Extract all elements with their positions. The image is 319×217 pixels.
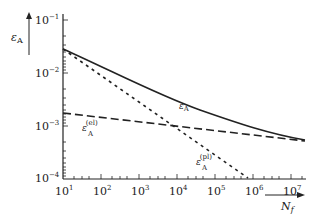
y-tick-labels: 10−1 10−2 10−3 10−4: [35, 13, 60, 185]
svg-text:10−1: 10−1: [35, 13, 59, 27]
x-arrow-head-icon: [297, 192, 305, 198]
svg-text:10−3: 10−3: [35, 119, 59, 133]
y-minor-ticks: [63, 20, 68, 176]
svg-text:10−4: 10−4: [35, 171, 60, 185]
label-total: εA: [179, 101, 190, 113]
label-plastic-sub: A: [201, 164, 208, 172]
curve-plastic-strain: [63, 49, 248, 178]
svg-text:103: 103: [131, 184, 149, 198]
svg-text:105: 105: [207, 184, 225, 198]
x-axis-label: Nf: [280, 200, 296, 214]
label-elastic-sub: A: [87, 130, 94, 138]
y-axis-label: εA: [11, 31, 23, 45]
svg-text:10−2: 10−2: [35, 66, 59, 80]
svg-text:102: 102: [93, 184, 111, 198]
strain-life-chart: 10−1 10−2 10−3 10−4 101 102 103 104 105 …: [0, 0, 319, 217]
curve-elastic-strain: [63, 113, 305, 141]
x-ticks: [74, 174, 302, 179]
y-arrow-head-icon: [26, 12, 32, 19]
svg-text:104: 104: [169, 184, 188, 198]
svg-text:101: 101: [55, 184, 73, 198]
svg-text:106: 106: [245, 184, 264, 198]
x-tick-labels: 101 102 103 104 105 106 107: [55, 184, 301, 198]
